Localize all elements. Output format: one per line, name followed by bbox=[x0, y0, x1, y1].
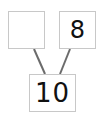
part-box-right[interactable]: 8 bbox=[59, 11, 96, 49]
whole-box[interactable]: 10 bbox=[29, 74, 76, 112]
whole-value: 10 bbox=[35, 78, 70, 108]
connector-right bbox=[60, 49, 70, 74]
part-box-left[interactable] bbox=[8, 11, 45, 49]
connector-left bbox=[34, 49, 45, 74]
part-right-value: 8 bbox=[70, 16, 85, 44]
